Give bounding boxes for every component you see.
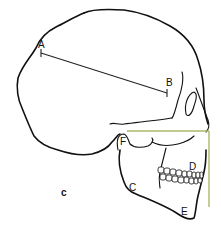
cranium-back-outline (17, 13, 120, 155)
frontal-curve (172, 72, 183, 118)
label-f: F (120, 136, 126, 147)
zygomatic-arch (110, 118, 172, 124)
orbit-outline (185, 92, 196, 116)
nasal-outline (196, 88, 209, 132)
skull-diagram: A B C D E F c (0, 0, 221, 225)
panel-label: c (61, 187, 67, 198)
cranium-outline (84, 9, 208, 124)
label-e: E (181, 206, 188, 217)
label-a: A (38, 39, 45, 50)
label-b: B (166, 77, 173, 88)
maxilla-outline (152, 136, 194, 145)
label-d: D (189, 161, 196, 172)
label-c: C (129, 182, 136, 193)
measurement-line-ab (41, 49, 167, 97)
